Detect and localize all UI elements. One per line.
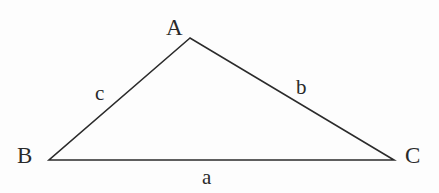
side-label-c: c: [95, 83, 104, 104]
vertex-label-c: C: [405, 144, 420, 167]
triangle-shape: [0, 0, 439, 193]
triangle-figure: A B C c b a: [0, 0, 439, 193]
side-label-b: b: [296, 77, 307, 98]
side-label-a: a: [202, 167, 211, 188]
vertex-label-a: A: [166, 16, 183, 39]
vertex-label-b: B: [17, 144, 32, 167]
